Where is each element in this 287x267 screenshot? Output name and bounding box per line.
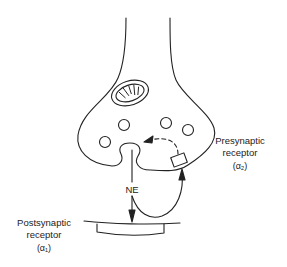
postsynaptic-receptor [97, 224, 164, 235]
ne-label: NE [125, 184, 138, 195]
vesicle [119, 120, 130, 131]
arrowhead-icon [144, 136, 153, 143]
vesicle [100, 137, 111, 148]
postsynaptic-label-line2: receptor [27, 229, 62, 240]
presynaptic-receptor [171, 153, 188, 167]
mitochondrion [108, 76, 152, 111]
arrowhead-icon [179, 169, 185, 180]
postsynaptic-label-line1: Postsynaptic [17, 217, 71, 228]
presynaptic-label-line3: (α₂) [233, 161, 248, 171]
feedback-dashed-arrow [150, 139, 178, 154]
postsynaptic-label-line3: (α₁) [37, 243, 51, 253]
presynaptic-label-line1: Presynaptic [215, 135, 265, 146]
presynaptic-label-line2: receptor [223, 147, 258, 158]
vesicle [161, 118, 172, 129]
axon-terminal-outline [78, 18, 215, 171]
synapse-diagram: NE Presynaptic receptor (α₂) Postsynapti… [0, 0, 287, 267]
arrowhead-icon [129, 210, 135, 222]
reuptake-curve-arrow [132, 172, 182, 217]
vesicle [183, 125, 194, 136]
